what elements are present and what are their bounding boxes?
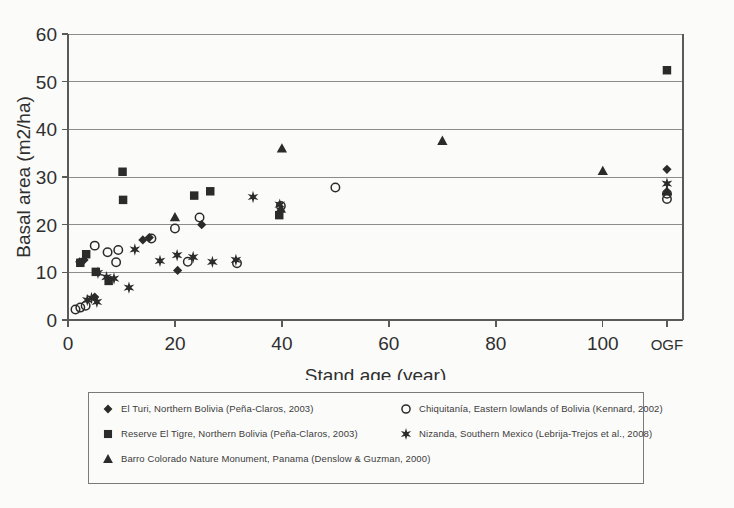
data-point (91, 241, 99, 249)
data-point (114, 246, 122, 254)
filled-triangle-marker-icon (101, 452, 115, 466)
series-2 (76, 66, 671, 285)
y-tick-label-50: 50 (36, 72, 57, 93)
x-tick-label-100: 100 (587, 333, 619, 354)
legend-row: Reserve El Tigre, Northern Bolivia (Peña… (99, 427, 633, 452)
series-4 (71, 183, 671, 313)
data-point (173, 266, 182, 275)
x-tick-label-OGF: OGF (651, 336, 684, 353)
star-marker-icon (399, 427, 413, 441)
legend-item[interactable]: El Turi, Northern Bolivia (Peña-Claros, … (99, 402, 397, 416)
legend-item[interactable]: Nizanda, Southern Mexico (Lebrija-Trejos… (397, 427, 652, 441)
data-point (103, 248, 111, 256)
legend-marker (397, 402, 415, 416)
data-point (331, 183, 339, 191)
y-tick-label-10: 10 (36, 262, 57, 283)
legend-marker (99, 402, 117, 416)
chart-canvas: 0102030405060020406080100OGFStand age (y… (0, 0, 734, 380)
data-point (277, 143, 287, 152)
filled-square-marker-icon (101, 427, 115, 441)
legend-label: Reserve El Tigre, Northern Bolivia (Peña… (121, 428, 358, 440)
data-point (119, 196, 127, 204)
series-1 (75, 165, 671, 302)
data-point (662, 165, 671, 174)
data-point (124, 281, 135, 293)
data-point (129, 243, 140, 255)
y-tick-label-30: 30 (36, 167, 57, 188)
data-point (662, 177, 673, 189)
plot-area: 0102030405060020406080100OGFStand age (y… (0, 0, 734, 380)
legend-label: Nizanda, Southern Mexico (Lebrija-Trejos… (419, 428, 652, 440)
legend-row: El Turi, Northern Bolivia (Peña-Claros, … (99, 402, 633, 427)
legend-marker (397, 427, 415, 441)
data-point (76, 259, 84, 267)
legend-item[interactable]: Barro Colorado Nature Monument, Panama (… (99, 452, 633, 466)
scatter-figure: 0102030405060020406080100OGFStand age (y… (0, 0, 734, 508)
legend-label: Barro Colorado Nature Monument, Panama (… (121, 453, 430, 465)
y-tick-label-20: 20 (36, 215, 57, 236)
legend-marker (99, 427, 117, 441)
y-tick-label-60: 60 (36, 24, 57, 45)
data-point (663, 66, 671, 74)
data-point (118, 168, 126, 176)
data-point (172, 249, 183, 261)
data-point (207, 256, 218, 268)
y-axis-title: Basal area (m2/ha) (13, 96, 34, 258)
data-point (170, 212, 180, 221)
data-point (195, 213, 203, 221)
data-point (598, 166, 608, 175)
data-point (437, 136, 447, 145)
legend-row: Barro Colorado Nature Monument, Panama (… (99, 452, 633, 477)
series-5 (82, 177, 672, 308)
filled-diamond-marker-icon (101, 402, 115, 416)
x-tick-label-60: 60 (378, 333, 399, 354)
legend-label: Chiquitanía, Eastern lowlands of Bolivia… (419, 403, 663, 415)
x-tick-label-40: 40 (271, 333, 292, 354)
chart-legend: El Turi, Northern Bolivia (Peña-Claros, … (88, 392, 644, 484)
legend-marker (99, 452, 117, 466)
legend-entries: El Turi, Northern Bolivia (Peña-Claros, … (89, 393, 643, 483)
x-tick-label-0: 0 (63, 333, 74, 354)
data-point (248, 191, 259, 203)
legend-item[interactable]: Reserve El Tigre, Northern Bolivia (Peña… (99, 427, 397, 441)
data-point (82, 250, 90, 258)
legend-item[interactable]: Chiquitanía, Eastern lowlands of Bolivia… (397, 402, 663, 416)
data-point (190, 191, 198, 199)
y-tick-label-0: 0 (46, 310, 57, 331)
data-point (206, 187, 214, 195)
data-point (188, 251, 199, 263)
open-circle-marker-icon (399, 402, 413, 416)
x-tick-label-20: 20 (164, 333, 185, 354)
data-point (112, 258, 120, 266)
x-axis-title: Stand age (year) (305, 365, 447, 380)
data-point (171, 224, 179, 232)
y-tick-label-40: 40 (36, 119, 57, 140)
data-point (155, 255, 166, 267)
x-tick-label-80: 80 (485, 333, 506, 354)
legend-label: El Turi, Northern Bolivia (Peña-Claros, … (121, 403, 313, 415)
series-3 (170, 136, 672, 222)
